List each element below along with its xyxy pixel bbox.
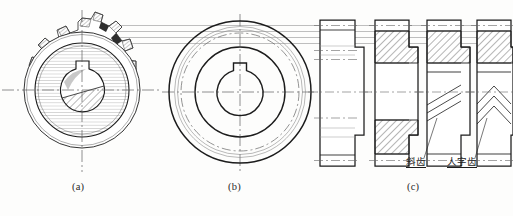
engineering-drawing-figure: 斜齿 人字齿 (a) (b) (c): [0, 0, 513, 216]
lower-rim-hatch: [375, 120, 418, 154]
view-c1-outline: [308, 20, 372, 166]
caption-a: (a): [72, 181, 84, 192]
view-c4-section-herringbone: [465, 20, 513, 166]
annotation-herringbone-label: 人字齿: [447, 156, 477, 168]
view-c2-section-spur: [363, 20, 427, 166]
upper-rim-hatch: [477, 31, 513, 63]
view-c-section-row: [308, 20, 513, 166]
caption-c: (c): [407, 181, 419, 192]
upper-rim-hatch: [375, 31, 418, 63]
upper-rim-hatch: [427, 31, 470, 63]
view-a-pictorial-gear: [2, 10, 162, 172]
annotation-helical-label: 斜齿: [406, 156, 426, 168]
view-c3-section-helical: [415, 20, 479, 166]
caption-b: (b): [228, 181, 241, 192]
